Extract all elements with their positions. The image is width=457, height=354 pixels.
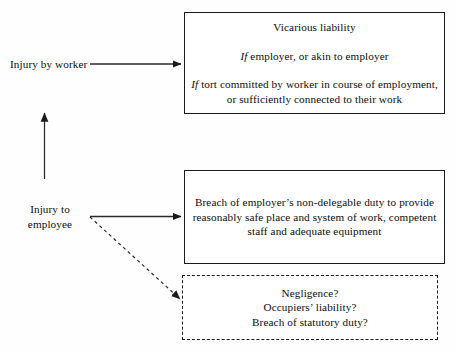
- label-injury-to-employee-line1: Injury to: [12, 202, 88, 217]
- vicarious-condition-1-text: employer, or akin to employer: [247, 50, 388, 62]
- label-injury-to-employee-line2: employee: [12, 217, 88, 232]
- alternatives-line-2: Occupiers’ liability?: [252, 300, 368, 315]
- breach-text: Breach of employer’s non-delegable duty …: [193, 195, 437, 239]
- vicarious-condition-2-line1-wrap: If tort committed by worker in course of…: [191, 77, 438, 92]
- vicarious-heading: Vicarious liability: [273, 20, 355, 34]
- label-injury-to-employee: Injury to employee: [12, 202, 88, 231]
- breach-line-1: Breach of employer’s non-delegable duty …: [193, 195, 437, 210]
- arrow-employee-to-alternatives: [90, 217, 180, 299]
- label-injury-by-worker-text: Injury by worker: [10, 58, 87, 70]
- breach-line-3: staff and adequate equipment: [193, 224, 437, 239]
- box-vicarious-liability: Vicarious liability If employer, or akin…: [184, 12, 445, 114]
- box-alternative-claims: Negligence? Occupiers’ liability? Breach…: [182, 275, 438, 340]
- vicarious-condition-2-line2: or sufficiently connected to their work: [191, 92, 438, 107]
- label-injury-by-worker: Injury by worker: [10, 57, 87, 72]
- vicarious-condition-1: If employer, or akin to employer: [240, 49, 388, 63]
- alternatives-text: Negligence? Occupiers’ liability? Breach…: [252, 286, 368, 330]
- alternatives-line-1: Negligence?: [252, 286, 368, 301]
- vicarious-condition-2-line1: tort committed by worker in course of em…: [198, 78, 438, 90]
- vicarious-condition-2: If tort committed by worker in course of…: [191, 77, 438, 106]
- box-breach-of-duty: Breach of employer’s non-delegable duty …: [184, 170, 445, 264]
- liability-flow-diagram: Injury by worker Injury to employee Vica…: [0, 0, 457, 354]
- breach-line-2: reasonably safe place and system of work…: [193, 210, 437, 225]
- alternatives-line-3: Breach of statutory duty?: [252, 315, 368, 330]
